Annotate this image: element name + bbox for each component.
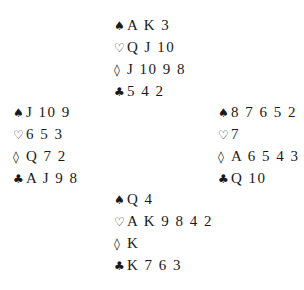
spade-icon: ♠ bbox=[114, 15, 126, 37]
spade-icon: ♠ bbox=[114, 189, 126, 211]
north-diamonds-row: ◊J 10 9 8 bbox=[114, 58, 186, 80]
east-spades-row: ♠8 7 6 5 2 bbox=[218, 101, 297, 123]
north-spades-row: ♠A K 3 bbox=[114, 14, 170, 36]
north-diamonds: J 10 9 8 bbox=[127, 61, 186, 77]
diamond-icon: ◊ bbox=[218, 146, 230, 168]
club-icon: ♣ bbox=[13, 168, 25, 190]
east-diamonds-row: ◊A 6 5 4 3 bbox=[218, 145, 300, 167]
west-spades-row: ♠J 10 9 bbox=[13, 101, 71, 123]
east-spades: 8 7 6 5 2 bbox=[231, 104, 297, 120]
north-clubs: 5 4 2 bbox=[127, 83, 165, 99]
west-diamonds-row: ◊Q 7 2 bbox=[13, 145, 67, 167]
heart-icon: ♡ bbox=[13, 124, 25, 146]
north-spades: A K 3 bbox=[127, 17, 170, 33]
south-diamonds-row: ◊K bbox=[114, 232, 139, 254]
west-clubs: A J 9 8 bbox=[26, 170, 79, 186]
club-icon: ♣ bbox=[114, 81, 126, 103]
west-hearts-row: ♡6 5 3 bbox=[13, 123, 64, 145]
west-clubs-row: ♣A J 9 8 bbox=[13, 167, 79, 189]
south-diamonds: K bbox=[127, 235, 139, 251]
east-diamonds: A 6 5 4 3 bbox=[231, 148, 300, 164]
west-diamonds: Q 7 2 bbox=[26, 148, 67, 164]
diamond-icon: ◊ bbox=[13, 146, 25, 168]
west-spades: J 10 9 bbox=[26, 104, 71, 120]
north-hearts-row: ♡Q J 10 bbox=[114, 36, 175, 58]
east-hearts-row: ♡7 bbox=[218, 123, 240, 145]
south-spades-row: ♠Q 4 bbox=[114, 188, 154, 210]
heart-icon: ♡ bbox=[114, 37, 126, 59]
spade-icon: ♠ bbox=[218, 102, 230, 124]
club-icon: ♣ bbox=[114, 255, 126, 277]
north-clubs-row: ♣5 4 2 bbox=[114, 80, 165, 102]
south-hearts-row: ♡A K 9 8 4 2 bbox=[114, 210, 213, 232]
club-icon: ♣ bbox=[218, 168, 230, 190]
north-hearts: Q J 10 bbox=[127, 39, 175, 55]
south-clubs: K 7 6 3 bbox=[127, 257, 182, 273]
south-hearts: A K 9 8 4 2 bbox=[127, 213, 213, 229]
south-clubs-row: ♣K 7 6 3 bbox=[114, 254, 182, 276]
heart-icon: ♡ bbox=[114, 211, 126, 233]
diamond-icon: ◊ bbox=[114, 233, 126, 255]
east-clubs: Q 10 bbox=[231, 170, 267, 186]
west-hearts: 6 5 3 bbox=[26, 126, 64, 142]
spade-icon: ♠ bbox=[13, 102, 25, 124]
south-spades: Q 4 bbox=[127, 191, 154, 207]
heart-icon: ♡ bbox=[218, 124, 230, 146]
east-clubs-row: ♣Q 10 bbox=[218, 167, 267, 189]
east-hearts: 7 bbox=[231, 126, 240, 142]
diamond-icon: ◊ bbox=[114, 59, 126, 81]
